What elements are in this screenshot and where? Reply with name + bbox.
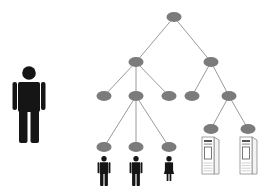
tree-edge bbox=[104, 62, 136, 96]
tree-edge bbox=[211, 62, 229, 96]
hierarchy-diagram bbox=[0, 0, 270, 196]
tree-node bbox=[204, 57, 219, 67]
tree-edge bbox=[104, 96, 136, 147]
edges-layer bbox=[104, 17, 248, 147]
tree-node bbox=[162, 142, 177, 152]
server-icon bbox=[202, 137, 219, 174]
tree-edge bbox=[136, 96, 169, 147]
server-icon bbox=[240, 137, 257, 174]
tree-node bbox=[241, 124, 256, 134]
woman-icon bbox=[164, 156, 174, 181]
tree-node bbox=[97, 91, 112, 101]
man-icon bbox=[13, 66, 46, 143]
tree-node bbox=[204, 124, 219, 134]
standalone-person bbox=[13, 66, 46, 143]
tree-node bbox=[129, 91, 144, 101]
tree-node bbox=[185, 91, 200, 101]
tree-edge bbox=[211, 96, 229, 129]
tree-edge bbox=[136, 62, 169, 96]
tree-node bbox=[97, 142, 112, 152]
tree-edge bbox=[174, 17, 211, 62]
tree-edge bbox=[229, 96, 248, 129]
man-icon bbox=[130, 156, 143, 186]
nodes-layer bbox=[97, 12, 256, 152]
tree-node bbox=[129, 57, 144, 67]
tree-node bbox=[162, 91, 177, 101]
tree-edge bbox=[136, 17, 174, 62]
tree-node bbox=[129, 142, 144, 152]
icons-layer bbox=[98, 137, 257, 186]
tree-node bbox=[222, 91, 237, 101]
man-icon bbox=[98, 156, 111, 186]
diagram-canvas bbox=[0, 0, 270, 196]
tree-node bbox=[167, 12, 182, 22]
tree-edge bbox=[192, 62, 211, 96]
